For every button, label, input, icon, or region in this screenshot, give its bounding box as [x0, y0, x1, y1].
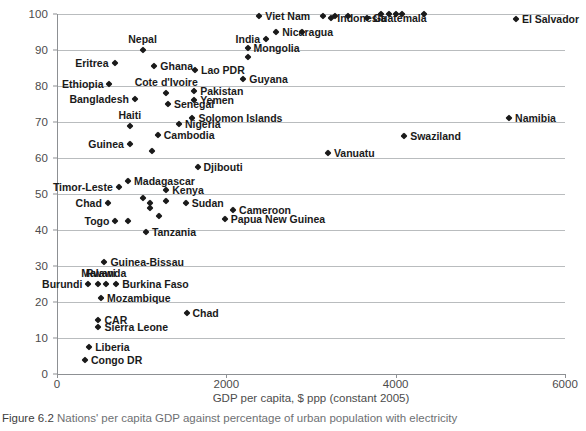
y-tick-label: 10 [18, 332, 48, 344]
y-tick-label: 80 [18, 80, 48, 92]
y-axis-label: % of the urban population with electrici… [0, 0, 14, 431]
data-point-label: Togo [85, 216, 110, 227]
data-point-label: Madagascar [134, 176, 195, 187]
data-point-label: Djibouti [204, 162, 243, 173]
figure-number: Figure 6.2 [2, 412, 54, 424]
y-tick-label: 90 [18, 44, 48, 56]
y-tick-mark [53, 266, 57, 267]
data-point-label: Chad [76, 198, 102, 209]
y-tick-label: 60 [18, 152, 48, 164]
data-point-label: Guyana [249, 74, 288, 85]
figure-caption: Figure 6.2 Nations' per capita GDP again… [2, 412, 586, 424]
gridline [57, 338, 565, 339]
data-point-label: Bangladesh [69, 93, 129, 104]
data-point-label: Solomon Islands [198, 113, 282, 124]
x-axis-line [57, 374, 566, 375]
data-point-label: Cambodia [164, 129, 215, 140]
y-tick-label: 70 [18, 116, 48, 128]
data-point-label: Namibia [515, 113, 556, 124]
data-point-label: Nepal [128, 34, 157, 45]
y-tick-label: 20 [18, 296, 48, 308]
gridline [57, 230, 565, 231]
figure-caption-text: Nations' per capita GDP against percenta… [57, 412, 457, 424]
data-point-label: Ethiopia [62, 79, 103, 90]
x-tick-mark [396, 374, 397, 378]
data-point-label: Cote d'Ivoire [135, 77, 198, 88]
y-tick-mark [53, 194, 57, 195]
data-point-label: Nicaragua [282, 27, 333, 38]
data-point-label: Sudan [192, 198, 224, 209]
figure-6-2: 0102030405060708090100 0200040006000 % o… [0, 0, 586, 431]
data-point-label: Congo DR [91, 354, 142, 365]
data-point-label: Rwanda [86, 268, 126, 279]
y-tick-mark [53, 338, 57, 339]
x-axis-label: GDP per capita, $ ppp (constant 2005) [57, 392, 565, 404]
x-tick-mark [565, 374, 566, 378]
data-point-label: CAR [104, 315, 127, 326]
data-point-label: Haiti [118, 109, 141, 120]
data-point-label: Chad [193, 308, 219, 319]
y-tick-mark [53, 86, 57, 87]
y-tick-mark [53, 302, 57, 303]
y-tick-mark [53, 50, 57, 51]
x-tick-mark [226, 374, 227, 378]
data-point-label: Guinea-Bissau [110, 257, 184, 268]
data-point-label: Burundi [42, 279, 82, 290]
data-point-label: Ghana [160, 61, 193, 72]
data-point-label: Liberia [95, 342, 129, 353]
data-point-label: Vanuatu [334, 147, 375, 158]
data-point-label: Burkina Faso [122, 279, 189, 290]
gridline [57, 122, 565, 123]
data-point-label: Cameroon [239, 205, 291, 216]
y-tick-label: 30 [18, 260, 48, 272]
gridline [57, 86, 565, 87]
data-point-label: Viet Nam [265, 11, 310, 22]
x-tick-label: 4000 [383, 378, 409, 390]
data-point-label: Mozambique [107, 293, 171, 304]
gridline [57, 158, 565, 159]
x-tick-label: 0 [54, 378, 60, 390]
y-tick-mark [53, 158, 57, 159]
data-point-label: Guinea [88, 138, 124, 149]
data-point-label: Lao PDR [201, 65, 245, 76]
y-tick-mark [53, 230, 57, 231]
data-point-label: Timor-Leste [53, 182, 113, 193]
x-tick-mark [57, 374, 58, 378]
x-tick-label: 2000 [214, 378, 240, 390]
gridline [57, 50, 565, 51]
y-tick-label: 40 [18, 224, 48, 236]
y-tick-label: 50 [18, 188, 48, 200]
x-tick-label: 6000 [552, 378, 578, 390]
gridline [57, 194, 565, 195]
data-point-label: Pakistan [200, 86, 243, 97]
y-tick-mark [53, 122, 57, 123]
data-point-label: El Salvador [522, 14, 579, 25]
y-tick-label: 0 [18, 368, 48, 380]
data-point-label: Tanzania [152, 227, 196, 238]
data-point-label: Swaziland [410, 131, 461, 142]
y-axis-line [57, 14, 58, 375]
data-point-label: Eritrea [75, 57, 108, 68]
data-point-label: India [236, 34, 261, 45]
y-tick-mark [53, 14, 57, 15]
y-tick-label: 100 [18, 8, 48, 20]
gridline [57, 14, 565, 15]
